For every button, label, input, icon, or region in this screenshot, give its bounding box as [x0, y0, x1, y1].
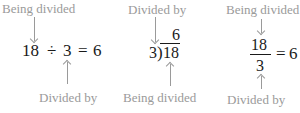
label-being-divided: Being divided — [2, 2, 75, 15]
arrow-down-icon — [261, 19, 262, 33]
arrow-down-icon — [155, 17, 156, 42]
label-divided-by: Divided by — [39, 91, 97, 104]
equals-sign: = — [78, 42, 88, 59]
label-divided-by: Divided by — [227, 93, 285, 106]
dividend: 18 — [163, 45, 179, 61]
fraction-bar — [250, 54, 271, 55]
divisor: 3 — [63, 42, 72, 59]
numerator: 18 — [251, 37, 267, 53]
denominator: 3 — [256, 58, 264, 74]
quotient: 6 — [172, 27, 180, 43]
division-bracket: ) — [157, 44, 163, 61]
label-divided-by: Divided by — [128, 3, 186, 16]
arrow-up-icon — [67, 62, 68, 84]
quotient: 6 — [93, 42, 102, 59]
label-being-divided: Being divided — [123, 91, 196, 104]
label-being-divided: Being divided — [226, 3, 299, 16]
equals-sign: = — [276, 45, 286, 62]
divisor: 3 — [149, 45, 157, 61]
division-operator: ÷ — [47, 42, 56, 59]
arrow-down-icon — [34, 17, 35, 41]
dividend: 18 — [22, 42, 39, 59]
arrow-up-icon — [261, 76, 262, 89]
result: 6 — [289, 45, 298, 62]
arrow-up-icon — [170, 64, 171, 86]
